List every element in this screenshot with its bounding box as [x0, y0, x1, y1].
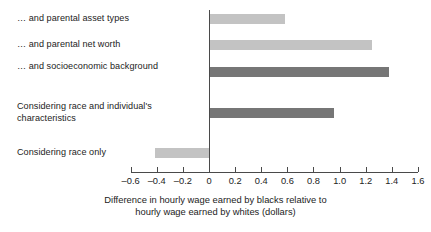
- x-axis-tick-label: 0.8: [307, 176, 320, 186]
- x-axis-tick: [340, 167, 341, 172]
- x-axis-tick-label: 0.4: [255, 176, 268, 186]
- x-axis-tick-label: 0.6: [281, 176, 294, 186]
- x-axis-tick: [392, 167, 393, 172]
- x-axis-tick-label: 1.4: [385, 176, 398, 186]
- x-axis-tick: [183, 167, 184, 172]
- x-axis-tick-label: 1.6: [411, 176, 424, 186]
- x-axis-tick: [261, 167, 262, 172]
- x-axis-tick-label: –0.4: [148, 176, 166, 186]
- x-axis-title-line-2: hourly wage earned by whites (dollars): [0, 206, 431, 218]
- x-axis-title-line-1: Difference in hourly wage earned by blac…: [0, 194, 431, 206]
- x-axis-tick-label: 1.0: [333, 176, 346, 186]
- x-axis-tick-label: –0.2: [174, 176, 192, 186]
- x-axis-line: [131, 172, 418, 173]
- x-axis-tick: [366, 167, 367, 172]
- x-axis-tick: [157, 167, 158, 172]
- x-axis-tick: [418, 167, 419, 172]
- x-axis-tick-label: 0.2: [229, 176, 242, 186]
- x-axis-tick: [131, 167, 132, 172]
- bar-chart: … and parental asset types … and parenta…: [0, 0, 431, 232]
- x-axis: –0.6–0.4–0.200.20.40.60.81.01.21.41.6: [0, 0, 431, 168]
- x-axis-tick-label: 1.2: [359, 176, 372, 186]
- x-axis-tick-label: 0: [206, 176, 211, 186]
- x-axis-tick: [235, 167, 236, 172]
- x-axis-title: Difference in hourly wage earned by blac…: [0, 194, 431, 219]
- x-axis-tick: [287, 167, 288, 172]
- x-axis-tick: [313, 167, 314, 172]
- x-axis-tick: [209, 167, 210, 172]
- x-axis-tick-label: –0.6: [122, 176, 140, 186]
